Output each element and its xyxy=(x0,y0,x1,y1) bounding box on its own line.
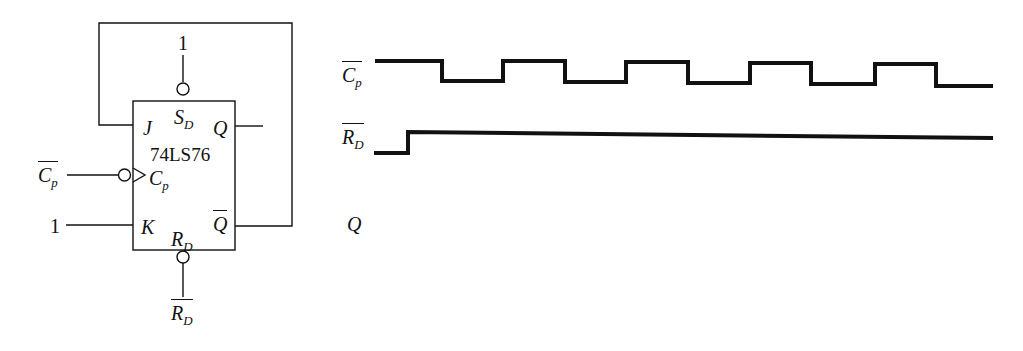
timing-clock-main: C xyxy=(342,64,355,86)
sd-pin-main: S xyxy=(174,106,184,128)
timing-reset-sub: D xyxy=(354,137,363,152)
q-pin-label: Q xyxy=(213,118,227,138)
reset-input-main: R xyxy=(171,302,183,324)
timing-clock-sub: p xyxy=(355,75,362,90)
cp-pin-main: C xyxy=(149,167,162,189)
k-level-label: 1 xyxy=(50,216,60,236)
timing-label-reset: RD xyxy=(342,127,364,147)
timing-reset-main: R xyxy=(342,126,354,148)
rd-pin-main: R xyxy=(171,228,183,250)
sd-level-label: 1 xyxy=(178,33,188,53)
qbar-pin-text: Q xyxy=(213,210,227,235)
clock-inversion-bubble xyxy=(119,169,131,181)
clock-input-label: Cp xyxy=(38,165,58,185)
timing-label-q: Q xyxy=(347,214,361,234)
clock-input-sub: p xyxy=(51,175,58,190)
cp-pin-label: Cp xyxy=(149,168,169,188)
reset-waveform xyxy=(374,132,993,153)
feedback-wire xyxy=(99,23,292,226)
timing-label-clock: Cp xyxy=(342,65,362,85)
sd-pin-label: SD xyxy=(174,107,193,127)
cp-pin-sub: p xyxy=(162,178,169,193)
sd-pin-sub: D xyxy=(184,117,193,132)
reset-input-label: RD xyxy=(171,303,193,323)
chip-name: 74LS76 xyxy=(150,145,210,164)
clock-input-main: C xyxy=(38,164,51,186)
clock-triangle-icon xyxy=(133,168,145,182)
qbar-pin-label: Q xyxy=(213,214,227,234)
rd-pin-sub: D xyxy=(183,239,192,254)
k-pin-label: K xyxy=(141,217,154,237)
rd-pin-label: RD xyxy=(171,229,193,249)
reset-input-sub: D xyxy=(183,313,192,328)
j-pin-label: J xyxy=(143,118,152,138)
clock-waveform xyxy=(375,61,993,86)
sd-inversion-bubble xyxy=(177,83,189,95)
